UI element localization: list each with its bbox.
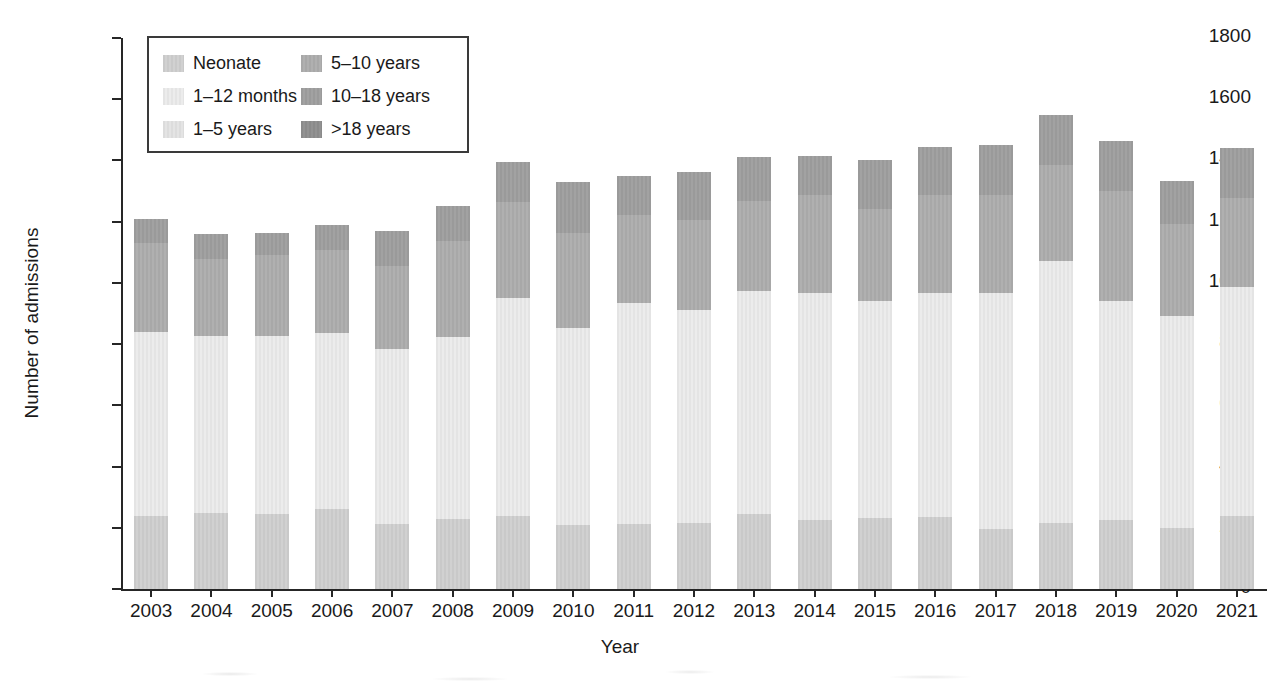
bar-segment[interactable]: [194, 234, 228, 259]
bar-segment[interactable]: [1220, 287, 1254, 516]
bar-segment[interactable]: [798, 520, 832, 589]
bar-segment[interactable]: [617, 303, 651, 523]
bar-segment[interactable]: [1039, 523, 1073, 589]
bar-segment[interactable]: [1099, 141, 1133, 191]
bar-segment[interactable]: [617, 176, 651, 215]
bar-segment[interactable]: [1099, 191, 1133, 301]
bar-segment[interactable]: [556, 328, 590, 525]
bar-segment[interactable]: [1160, 528, 1194, 589]
bar-segment[interactable]: [677, 523, 711, 589]
bar-segment[interactable]: [134, 243, 168, 332]
bar-segment[interactable]: [255, 255, 289, 336]
x-tick-label: 2012: [664, 600, 724, 622]
bar-segment[interactable]: [858, 301, 892, 518]
bar-stack[interactable]: [1039, 38, 1073, 589]
bar-segment[interactable]: [918, 517, 952, 589]
legend-item[interactable]: 1–5 years: [163, 113, 297, 146]
bar-segment[interactable]: [737, 157, 771, 200]
bar-segment[interactable]: [496, 298, 530, 517]
bar-segment[interactable]: [315, 333, 349, 509]
legend-item[interactable]: 10–18 years: [301, 80, 430, 113]
bar-segment[interactable]: [737, 514, 771, 589]
bar-segment[interactable]: [677, 172, 711, 220]
bar-segment[interactable]: [798, 156, 832, 195]
bar-segment[interactable]: [436, 337, 470, 519]
bar-segment[interactable]: [1039, 261, 1073, 523]
bar-segment[interactable]: [375, 349, 409, 523]
bar-segment[interactable]: [436, 519, 470, 589]
bar-segment[interactable]: [1099, 301, 1133, 521]
bar-segment[interactable]: [375, 231, 409, 266]
bar-segment[interactable]: [134, 332, 168, 516]
bar-segment[interactable]: [617, 524, 651, 590]
bar-segment[interactable]: [194, 336, 228, 513]
bar-segment[interactable]: [737, 291, 771, 513]
bar-stack[interactable]: [496, 38, 530, 589]
bar-segment[interactable]: [556, 182, 590, 233]
legend-item[interactable]: >18 years: [301, 113, 430, 146]
bar-segment[interactable]: [255, 514, 289, 589]
bar-stack[interactable]: [617, 38, 651, 589]
bar-segment[interactable]: [1220, 198, 1254, 286]
bar-segment[interactable]: [315, 250, 349, 333]
bar-stack[interactable]: [798, 38, 832, 589]
bar-segment[interactable]: [375, 524, 409, 590]
bar-segment[interactable]: [918, 293, 952, 518]
legend-item[interactable]: 5–10 years: [301, 47, 430, 80]
bar-segment[interactable]: [1160, 181, 1194, 224]
bar-stack[interactable]: [858, 38, 892, 589]
bar-segment[interactable]: [737, 201, 771, 292]
bar-segment[interactable]: [858, 160, 892, 208]
bar-segment[interactable]: [1160, 224, 1194, 316]
bar-segment[interactable]: [617, 215, 651, 303]
bar-segment[interactable]: [1160, 316, 1194, 528]
bar-segment[interactable]: [255, 336, 289, 514]
bar-segment[interactable]: [1220, 516, 1254, 589]
bar-segment[interactable]: [798, 195, 832, 293]
bar-segment[interactable]: [134, 516, 168, 589]
legend-item-label: 1–12 months: [193, 86, 297, 107]
bar-segment[interactable]: [1220, 148, 1254, 198]
bar-segment[interactable]: [798, 293, 832, 520]
bar-segment[interactable]: [858, 518, 892, 589]
legend-item-label: 5–10 years: [331, 53, 420, 74]
bar-segment[interactable]: [496, 202, 530, 298]
bar-stack[interactable]: [737, 38, 771, 589]
bar-segment[interactable]: [375, 266, 409, 349]
bar-segment[interactable]: [496, 516, 530, 589]
bar-segment[interactable]: [255, 233, 289, 256]
bar-segment[interactable]: [134, 219, 168, 243]
bar-segment[interactable]: [436, 206, 470, 241]
x-tick-label: 2005: [242, 600, 302, 622]
legend-item[interactable]: Neonate: [163, 47, 297, 80]
bar-segment[interactable]: [677, 220, 711, 310]
bar-segment[interactable]: [1099, 520, 1133, 589]
bar-segment[interactable]: [677, 310, 711, 523]
bar-stack[interactable]: [677, 38, 711, 589]
bar-segment[interactable]: [315, 509, 349, 589]
bar-segment[interactable]: [556, 233, 590, 328]
bar-segment[interactable]: [918, 195, 952, 292]
bar-segment[interactable]: [918, 147, 952, 195]
bar-stack[interactable]: [1160, 38, 1194, 589]
bar-segment[interactable]: [858, 209, 892, 301]
bar-segment[interactable]: [1039, 115, 1073, 166]
bar-segment[interactable]: [979, 293, 1013, 529]
bar-segment[interactable]: [979, 195, 1013, 293]
legend-item[interactable]: 1–12 months: [163, 80, 297, 113]
bar-stack[interactable]: [1099, 38, 1133, 589]
bar-segment[interactable]: [436, 241, 470, 337]
bar-segment[interactable]: [194, 513, 228, 589]
bar-segment[interactable]: [979, 529, 1013, 589]
bar-segment[interactable]: [556, 525, 590, 589]
bar-segment[interactable]: [315, 225, 349, 250]
legend-swatch: [163, 88, 184, 105]
bar-segment[interactable]: [979, 145, 1013, 195]
bar-stack[interactable]: [1220, 38, 1254, 589]
bar-segment[interactable]: [194, 259, 228, 336]
bar-stack[interactable]: [918, 38, 952, 589]
bar-stack[interactable]: [979, 38, 1013, 589]
bar-segment[interactable]: [1039, 165, 1073, 261]
bar-segment[interactable]: [496, 162, 530, 202]
bar-stack[interactable]: [556, 38, 590, 589]
